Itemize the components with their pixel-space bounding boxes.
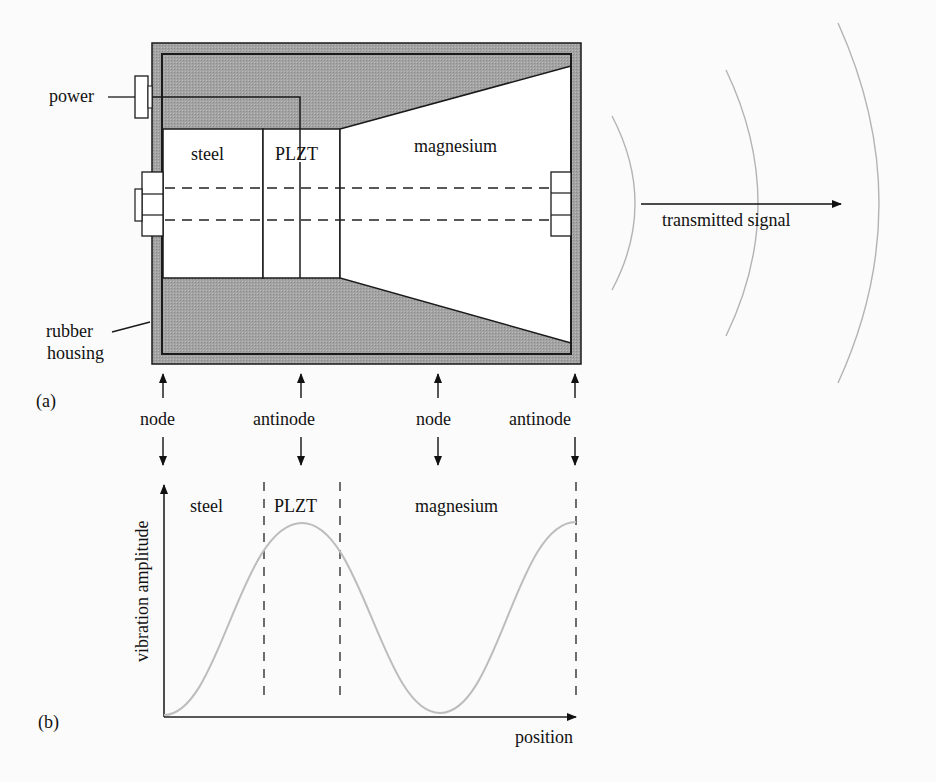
power-label: power xyxy=(49,87,94,105)
plzt-region-label: PLZT xyxy=(275,145,318,163)
chart-magnesium-label: magnesium xyxy=(415,497,498,515)
left-bolt-head xyxy=(135,172,163,236)
marker-label-node-2: node xyxy=(416,410,451,428)
marker-label-antinode-1: antinode xyxy=(253,410,315,428)
wave-arc-2 xyxy=(726,70,758,336)
marker-label-node-1: node xyxy=(140,410,175,428)
y-axis-label: vibration amplitude xyxy=(132,521,153,662)
amplitude-curve xyxy=(164,522,576,715)
rubber-housing-label-line2: housing xyxy=(47,344,104,362)
chart-plzt-label: PLZT xyxy=(274,497,317,515)
wave-arcs xyxy=(612,23,879,383)
amplitude-chart xyxy=(164,482,576,717)
marker-label-antinode-2: antinode xyxy=(509,410,571,428)
panel-a-label: (a) xyxy=(36,392,56,410)
panel-b-label: (b) xyxy=(38,713,59,731)
power-connector xyxy=(135,76,152,118)
wave-arc-3 xyxy=(838,23,879,383)
transmitted-signal-label: transmitted signal xyxy=(662,211,790,229)
figure-canvas xyxy=(0,0,936,782)
rubber-housing-leader xyxy=(112,322,150,332)
transducer-diagram xyxy=(108,43,581,364)
steel-region-label: steel xyxy=(191,145,224,163)
chart-steel-label: steel xyxy=(190,497,223,515)
x-axis-label: position xyxy=(515,728,573,746)
wave-arc-1 xyxy=(612,116,635,290)
rubber-housing-label-line1: rubber xyxy=(46,322,93,340)
right-bolt-nut xyxy=(551,172,571,236)
magnesium-region-label: magnesium xyxy=(414,137,497,155)
